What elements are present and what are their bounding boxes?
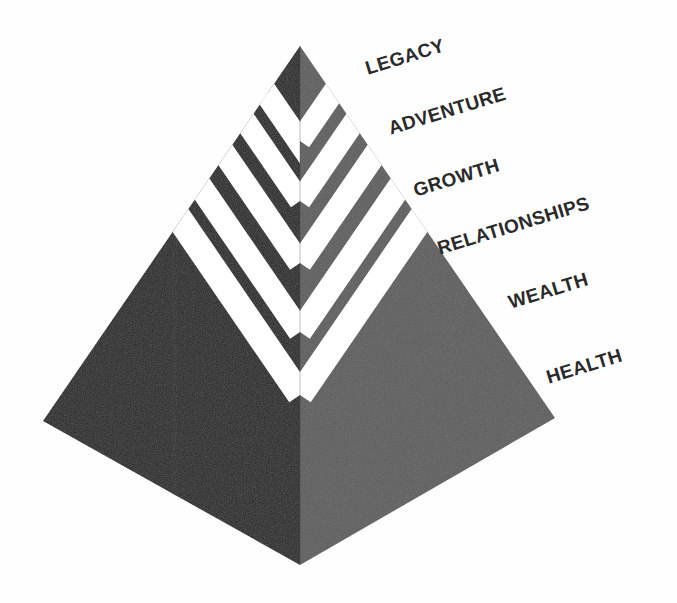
tier-gap-1-left (121, 0, 309, 147)
pyramid-graphic (0, 0, 677, 603)
pyramid-left-face (43, 40, 300, 580)
pyramid-figure: LEGACY ADVENTURE GROWTH RELATIONSHIPS WE… (0, 0, 677, 603)
